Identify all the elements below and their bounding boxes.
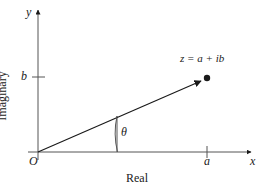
imaginary-tick-label-b: b — [21, 70, 27, 82]
x-axis-tip-label: x — [250, 155, 255, 167]
point-z-label: z = a + ib — [180, 53, 224, 64]
imaginary-axis-name: Imaginary — [0, 71, 8, 120]
complex-plane-figure: y x b a O θ z = a + ib Real Imaginary — [0, 0, 264, 194]
real-axis-name: Real — [126, 172, 148, 184]
theta-angle-label: θ — [121, 126, 127, 138]
figure-canvas — [0, 0, 264, 194]
modulus-vector-ray — [38, 81, 201, 152]
real-tick-label-a: a — [204, 155, 210, 167]
origin-label: O — [29, 155, 38, 167]
y-axis-tip-label: y — [26, 6, 31, 18]
point-z-dot — [204, 75, 210, 81]
